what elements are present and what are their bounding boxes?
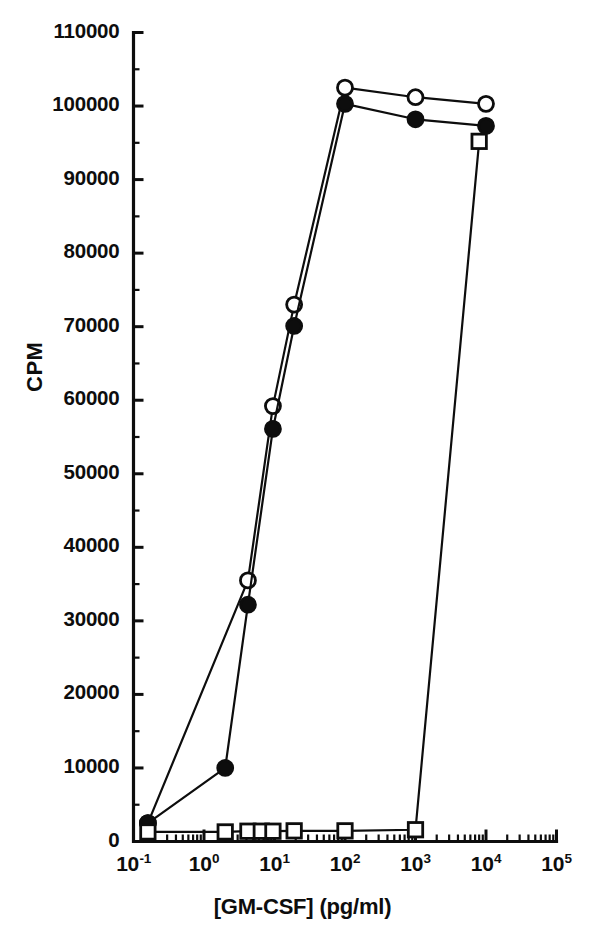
series-line-open-circle-series [148,88,486,823]
data-point-open-square [338,824,352,838]
y-tick-label: 70000 [63,313,119,337]
y-tick-label: 60000 [63,386,119,410]
data-point-filled-circle [240,597,255,612]
x-tick-label: 105 [541,852,571,876]
data-point-open-square [266,824,280,838]
y-tick-label: 0 [108,828,119,852]
x-axis-label: [GM-CSF] (pg/ml) [0,894,605,920]
data-point-filled-circle [287,318,302,333]
x-tick-label: 100 [189,852,219,876]
y-tick-label: 20000 [63,680,119,704]
axis-spines [134,33,557,842]
data-point-open-circle [338,80,353,95]
y-tick-label: 90000 [63,166,119,190]
data-point-open-circle [408,90,423,105]
axis-ticks-group [134,33,557,842]
data-point-filled-circle [479,118,494,133]
data-point-open-square [472,134,486,148]
y-tick-label: 110000 [53,19,119,43]
data-point-filled-circle [338,96,353,111]
data-point-open-square [218,825,232,839]
x-tick-label: 103 [400,852,430,876]
x-tick-label: 104 [471,852,501,876]
data-point-open-square [408,823,422,837]
x-tick-label: 10-1 [116,852,151,876]
y-axis-label: CPM [22,342,48,392]
y-tick-label: 50000 [63,460,119,484]
y-tick-label: 100000 [52,92,119,116]
y-tick-label: 40000 [63,533,119,557]
axes-group [134,33,557,842]
x-tick-label: 101 [259,852,289,876]
data-point-open-circle [479,96,494,111]
y-tick-label: 10000 [63,754,119,778]
data-point-open-square [141,825,155,839]
data-point-open-square [287,824,301,838]
data-point-filled-circle [408,112,423,127]
y-tick-label: 80000 [63,239,119,263]
chart-figure: 0100002000030000400005000060000700008000… [0,0,605,944]
data-point-filled-circle [218,760,233,775]
data-series-group [140,80,493,839]
x-tick-label: 102 [330,852,360,876]
y-tick-label: 30000 [63,607,119,631]
data-point-filled-circle [265,421,280,436]
